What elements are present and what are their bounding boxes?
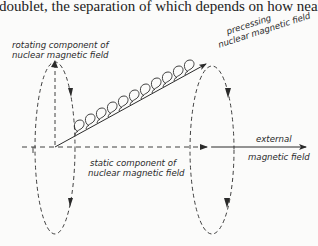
- static-label-line2: nuclear magnetic field: [88, 168, 185, 178]
- static-line-arrow-icon: [200, 144, 208, 150]
- nuclear-precession-diagram: rotating component of nuclear magnetic f…: [0, 0, 318, 246]
- right-ellipse-arrow-lower-icon: [224, 198, 230, 208]
- rotating-label-line1: rotating component of: [12, 40, 110, 50]
- external-label-line2: magnetic field: [248, 152, 310, 162]
- right-ellipse-arrow-upper-icon: [225, 88, 231, 98]
- helix-loops: [74, 60, 194, 135]
- static-label-line1: static component of: [90, 158, 178, 168]
- left-ellipse-arrow-top-icon: [51, 60, 58, 68]
- left-ellipse-arrow-right-lower-icon: [68, 198, 73, 207]
- precessing-vector: [55, 64, 206, 147]
- rotating-label-line2: nuclear magnetic field: [12, 50, 109, 60]
- external-label-line1: external: [256, 134, 292, 144]
- left-ellipse-arrow-right-upper-icon: [68, 88, 73, 97]
